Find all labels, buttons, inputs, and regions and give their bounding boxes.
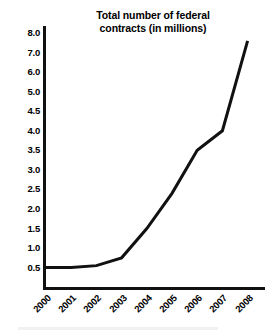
page-edge-smudge xyxy=(18,327,218,330)
axis-lines xyxy=(43,26,265,289)
chart-figure: Total number of federal contracts (in mi… xyxy=(0,0,274,333)
plot-area xyxy=(0,0,274,333)
data-series-line xyxy=(46,41,248,268)
